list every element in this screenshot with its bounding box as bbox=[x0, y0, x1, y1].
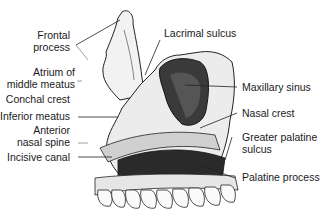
label-line: Inferior meatus bbox=[0, 110, 70, 122]
label-line: Frontal bbox=[33, 29, 70, 41]
label-line: Palatine process bbox=[242, 171, 320, 183]
label-line: Greater palatine bbox=[242, 131, 317, 143]
label-line: Maxillary sinus bbox=[242, 81, 311, 93]
label-conchal-crest: Conchal crest bbox=[6, 93, 70, 105]
label-incisive-canal: Incisive canal bbox=[7, 151, 70, 163]
label-maxillary-sinus: Maxillary sinus bbox=[242, 81, 311, 93]
maxilla-diagram: Frontal process Atrium of middle meatus … bbox=[0, 0, 320, 213]
label-line: Atrium of bbox=[7, 66, 75, 78]
label-nasal-crest: Nasal crest bbox=[242, 107, 295, 119]
label-palatine-process: Palatine process bbox=[242, 171, 320, 183]
label-anterior-nasal-spine: Anterior nasal spine bbox=[17, 124, 70, 148]
label-line: sulcus bbox=[242, 143, 317, 155]
label-line: middle meatus bbox=[7, 78, 75, 90]
label-line: process bbox=[33, 41, 70, 53]
label-atrium-middle-meatus: Atrium of middle meatus bbox=[7, 66, 75, 90]
label-line: nasal spine bbox=[17, 136, 70, 148]
label-inferior-meatus: Inferior meatus bbox=[0, 110, 70, 122]
label-greater-palatine-sulcus: Greater palatine sulcus bbox=[242, 131, 317, 155]
label-lacrimal-sulcus: Lacrimal sulcus bbox=[164, 27, 236, 39]
label-line: Anterior bbox=[17, 124, 70, 136]
label-line: Incisive canal bbox=[7, 151, 70, 163]
label-line: Nasal crest bbox=[242, 107, 295, 119]
label-line: Lacrimal sulcus bbox=[164, 27, 236, 39]
label-line: Conchal crest bbox=[6, 93, 70, 105]
label-frontal-process: Frontal process bbox=[33, 29, 70, 53]
